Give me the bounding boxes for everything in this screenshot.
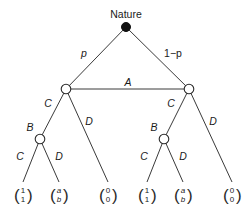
svg-text:1: 1 <box>145 195 150 204</box>
payoff-right-CD: ( a b ) <box>174 186 193 205</box>
payoff-left-D: ( 0 0 ) <box>99 186 118 205</box>
left-player-B-label: B <box>26 121 33 133</box>
svg-text:(: ( <box>174 186 180 205</box>
svg-text:1: 1 <box>145 186 150 195</box>
payoff-left-CC: ( 1 1 ) <box>14 186 33 205</box>
svg-text:1: 1 <box>21 195 26 204</box>
svg-text:): ) <box>63 186 69 205</box>
nature-node <box>122 23 131 32</box>
svg-text:1: 1 <box>21 186 26 195</box>
edge-right-B-C <box>147 139 164 182</box>
svg-text:b: b <box>181 195 186 204</box>
prob-left-label: p <box>80 47 87 59</box>
svg-text:0: 0 <box>106 195 111 204</box>
svg-text:(: ( <box>99 186 105 205</box>
edge-nature-left <box>66 27 126 89</box>
svg-text:0: 0 <box>106 186 111 195</box>
right-A-action-D: D <box>209 115 217 127</box>
svg-text:(: ( <box>138 186 144 205</box>
edge-left-A-D <box>66 89 108 182</box>
svg-text:): ) <box>151 186 157 205</box>
left-A-action-C: C <box>44 97 52 109</box>
information-set-label: A <box>123 76 131 88</box>
svg-text:a: a <box>57 186 62 195</box>
edge-right-A-D <box>189 89 232 182</box>
svg-text:(: ( <box>14 186 20 205</box>
game-tree: Nature p 1−p A C D B C D C D B C D ( 1 1… <box>0 0 251 215</box>
svg-text:0: 0 <box>230 195 235 204</box>
svg-text:a: a <box>181 186 186 195</box>
svg-text:): ) <box>112 186 118 205</box>
payoff-left-CD: ( a b ) <box>50 186 69 205</box>
right-player-B-label: B <box>150 121 157 133</box>
svg-text:0: 0 <box>230 186 235 195</box>
right-B-action-D: D <box>179 150 187 162</box>
right-B-action-C: C <box>140 150 148 162</box>
decision-node-left-B <box>35 134 45 144</box>
svg-text:(: ( <box>223 186 229 205</box>
svg-text:): ) <box>187 186 193 205</box>
svg-text:): ) <box>236 186 242 205</box>
svg-text:b: b <box>57 195 62 204</box>
right-A-action-C: C <box>167 97 175 109</box>
edge-left-B-C <box>23 139 40 182</box>
left-B-action-D: D <box>55 150 63 162</box>
decision-node-left-A <box>61 84 71 94</box>
prob-right-label: 1−p <box>164 47 182 59</box>
decision-node-right-A <box>184 84 194 94</box>
left-A-action-D: D <box>85 115 93 127</box>
svg-text:(: ( <box>50 186 56 205</box>
payoff-right-CC: ( 1 1 ) <box>138 186 157 205</box>
payoff-right-D: ( 0 0 ) <box>223 186 242 205</box>
svg-text:): ) <box>27 186 33 205</box>
decision-node-right-B <box>159 134 169 144</box>
left-B-action-C: C <box>16 150 24 162</box>
nature-label: Nature <box>110 8 142 20</box>
